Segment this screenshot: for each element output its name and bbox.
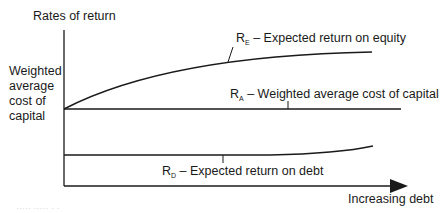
footer-faint-text: ····· ····· · · xyxy=(16,203,59,213)
x-axis-arrowhead-icon xyxy=(390,179,408,193)
curve-rd xyxy=(64,146,373,155)
x-axis-label: Increasing debt xyxy=(348,192,433,207)
side-label-line: average xyxy=(9,79,62,94)
label-ra-symbol: R xyxy=(230,87,239,101)
side-label-line: cost of xyxy=(9,94,62,109)
y-axis-label: Rates of return xyxy=(33,9,116,24)
label-rd: RD – Expected return on debt xyxy=(162,164,323,183)
side-label: Weighted average cost of capital xyxy=(9,64,62,124)
label-rd-text: – Expected return on debt xyxy=(176,164,323,178)
label-re-symbol: R xyxy=(236,31,245,45)
side-label-line: Weighted xyxy=(9,64,62,79)
label-re: RE – Expected return on equity xyxy=(236,31,406,50)
label-ra: RA – Weighted average cost of capital xyxy=(230,87,439,106)
label-re-text: – Expected return on equity xyxy=(250,31,406,45)
label-ra-text: – Weighted average cost of capital xyxy=(244,87,439,101)
side-label-line: capital xyxy=(9,109,62,124)
leader-re xyxy=(228,47,233,62)
label-rd-symbol: R xyxy=(162,164,171,178)
